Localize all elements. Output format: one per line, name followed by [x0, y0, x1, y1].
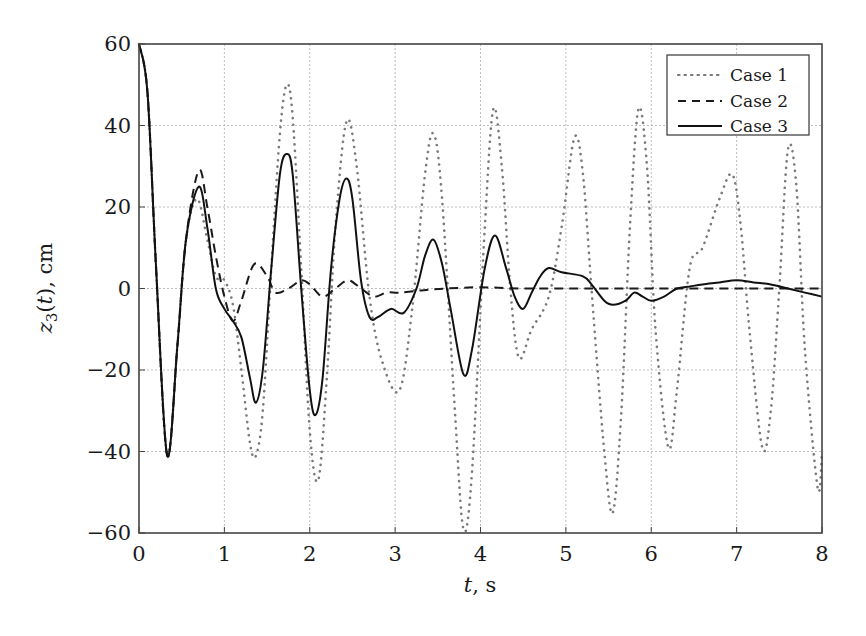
- legend-label-case-1: Case 1: [730, 65, 788, 85]
- y-tick-label: 60: [104, 32, 131, 56]
- x-tick-label: 1: [218, 542, 231, 566]
- y-axis-ticks: −60−40−200204060: [87, 32, 145, 545]
- x-tick-label: 4: [474, 542, 487, 566]
- legend-label-case-3: Case 3: [730, 116, 788, 136]
- x-tick-label: 5: [559, 542, 572, 566]
- y-tick-label: 20: [104, 195, 131, 219]
- y-tick-label: −40: [87, 440, 131, 464]
- y-tick-label: 0: [118, 277, 131, 301]
- y-tick-label: 40: [104, 114, 131, 138]
- y-axis-label: z3(t), cm: [33, 243, 61, 335]
- x-tick-label: 2: [303, 542, 316, 566]
- x-tick-label: 6: [645, 542, 658, 566]
- legend: Case 1 Case 2 Case 3: [667, 55, 809, 136]
- legend-label-case-2: Case 2: [730, 91, 788, 111]
- x-tick-label: 8: [815, 542, 828, 566]
- line-chart: 012345678 −60−40−200204060 t, s z3(t), c…: [0, 0, 866, 636]
- x-axis-label: t, s: [464, 573, 497, 597]
- x-tick-label: 7: [730, 542, 743, 566]
- y-tick-label: −20: [87, 358, 131, 382]
- x-tick-label: 3: [388, 542, 401, 566]
- y-tick-label: −60: [87, 521, 131, 545]
- x-tick-label: 0: [132, 542, 145, 566]
